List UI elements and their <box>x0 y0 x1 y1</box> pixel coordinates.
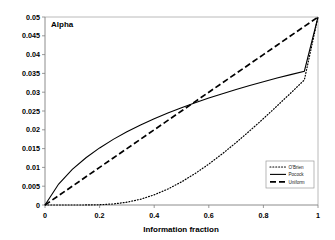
x-axis-title: Information fraction <box>143 225 219 234</box>
legend-label-uniform: Uniform <box>289 180 305 185</box>
y-tick-label: 0.02 <box>26 125 40 134</box>
x-tick-label: 0 <box>43 211 47 220</box>
alpha-spending-chart: 00.0050.010.0150.020.0250.030.0350.040.0… <box>0 0 335 240</box>
y-axis-ticks: 00.0050.010.0150.020.0250.030.0350.040.0… <box>22 13 45 210</box>
x-tick-label: 0.2 <box>95 211 105 220</box>
x-tick-label: 0.6 <box>204 211 214 220</box>
y-tick-label: 0.025 <box>22 107 40 116</box>
y-tick-label: 0.045 <box>22 31 40 40</box>
y-tick-label: 0 <box>36 201 40 210</box>
y-tick-label: 0.015 <box>22 144 40 153</box>
x-axis-ticks: 00.20.40.60.81 <box>43 205 320 220</box>
x-tick-label: 0.8 <box>258 211 268 220</box>
x-tick-label: 0.4 <box>149 211 159 220</box>
y-tick-label: 0.035 <box>22 69 40 78</box>
legend-label-o-brien: O'Brien <box>289 165 305 170</box>
y-tick-label: 0.03 <box>26 88 40 97</box>
chart-canvas: 00.0050.010.0150.020.0250.030.0350.040.0… <box>0 0 335 240</box>
x-tick-label: 1 <box>316 211 320 220</box>
legend-label-pocock: Pocock <box>289 172 305 177</box>
y-tick-label: 0.01 <box>26 163 40 172</box>
y-tick-label: 0.04 <box>26 50 40 59</box>
y-tick-label: 0.05 <box>26 13 40 22</box>
y-tick-label: 0.005 <box>22 182 40 191</box>
alpha-corner-label: Alpha <box>51 20 74 29</box>
chart-legend: O'BrienPocockUniform <box>266 161 314 188</box>
